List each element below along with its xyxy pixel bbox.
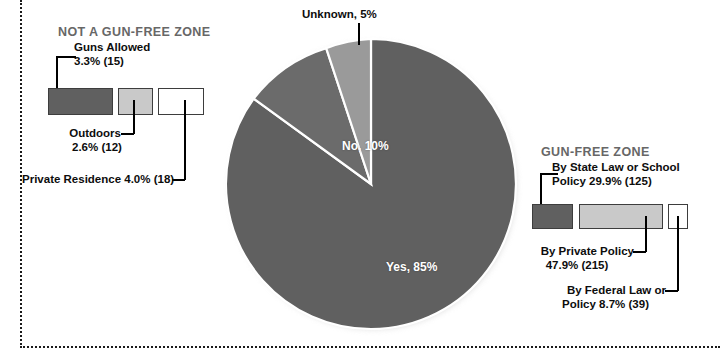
right-bar-private-policy (579, 204, 663, 229)
pie-label-unknown: Unknown, 5% (302, 8, 377, 22)
right-bar-state-law (532, 204, 573, 229)
left-callout-outdoors-value: 2.6% (12) (72, 141, 122, 155)
pie-label-no: No, 10% (342, 139, 389, 153)
left-bar-private-residence (158, 88, 204, 115)
right-callout-state-law-line1: By State Law or School (552, 161, 680, 175)
leader-line-guns-allowed-horizontal (56, 56, 76, 58)
leader-line-private-policy-vertical (645, 216, 647, 252)
right-callout-private-policy-line2: 47.9% (215) (520, 259, 634, 273)
leader-line-private-policy-horizontal (633, 251, 646, 253)
left-callout-guns-allowed-label: Guns Allowed (74, 41, 150, 55)
right-callout-private-policy-line1: By Private Policy (520, 245, 634, 259)
leader-line-private-residence-vertical (184, 100, 186, 180)
left-bar-guns-allowed (48, 88, 113, 115)
leader-line-outdoors-horizontal (121, 133, 134, 135)
right-callout-federal-law-line2: Policy 8.7% (39) (545, 298, 666, 312)
left-bar-outdoors (118, 88, 153, 115)
leader-line-outdoors-vertical (133, 100, 135, 134)
right-panel-title: GUN-FREE ZONE (541, 145, 650, 159)
pie-chart-svg (226, 36, 518, 332)
left-panel-title: NOT A GUN-FREE ZONE (58, 25, 211, 39)
right-callout-state-law-line2: Policy 29.9% (125) (552, 175, 652, 189)
leader-line-unknown (358, 23, 360, 45)
left-callout-guns-allowed-value: 3.3% (15) (74, 55, 124, 69)
left-callout-outdoors-label: Outdoors (25, 127, 121, 141)
pie-label-yes: Yes, 85% (386, 260, 437, 274)
pie-chart: No, 10% Yes, 85% (226, 36, 518, 332)
leader-line-state-law-horizontal (540, 173, 558, 175)
right-callout-federal-law-line1: By Federal Law or (545, 284, 666, 298)
leader-line-federal-law-horizontal (665, 290, 678, 292)
figure-border-bottom (20, 346, 720, 348)
leader-line-federal-law-vertical (677, 216, 679, 291)
chart-figure: NOT A GUN-FREE ZONE Guns Allowed 3.3% (1… (0, 0, 722, 354)
left-callout-private-residence: Private Residence 4.0% (18) (22, 173, 172, 187)
